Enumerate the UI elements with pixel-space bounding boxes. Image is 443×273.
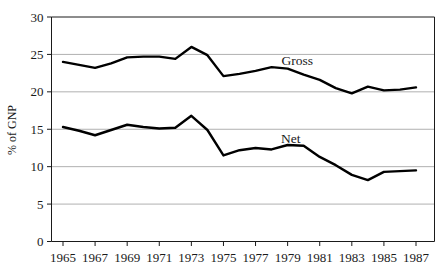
x-tick-label: 1987	[403, 250, 430, 265]
y-axis-title: % of GNP	[5, 105, 19, 155]
y-tick-label: 10	[31, 159, 44, 174]
line-chart: 051015202530 196519671969197119731975197…	[0, 0, 443, 273]
x-tick-label: 1977	[243, 250, 270, 265]
y-tick-label: 5	[37, 197, 44, 212]
y-tick-label: 25	[31, 47, 44, 62]
y-tick-label: 0	[37, 234, 44, 249]
chart-background	[0, 0, 443, 273]
y-tick-label: 30	[31, 10, 44, 25]
x-tick-label: 1971	[146, 250, 172, 265]
x-tick-label: 1967	[82, 250, 109, 265]
chart-container: 051015202530 196519671969197119731975197…	[0, 0, 443, 273]
x-tick-label: 1965	[50, 250, 76, 265]
x-tick-label: 1981	[307, 250, 333, 265]
series-label-gross: Gross	[282, 53, 314, 68]
x-tick-label: 1979	[275, 250, 301, 265]
y-tick-label: 20	[31, 84, 44, 99]
x-tick-label: 1983	[339, 250, 365, 265]
x-tick-label: 1975	[210, 250, 236, 265]
y-axis-label-group: % of GNP	[5, 105, 19, 155]
x-tick-label: 1985	[371, 250, 397, 265]
series-label-net: Net	[281, 131, 301, 146]
x-tick-label: 1973	[178, 250, 204, 265]
x-tick-label: 1969	[114, 250, 140, 265]
y-tick-label: 15	[31, 122, 44, 137]
